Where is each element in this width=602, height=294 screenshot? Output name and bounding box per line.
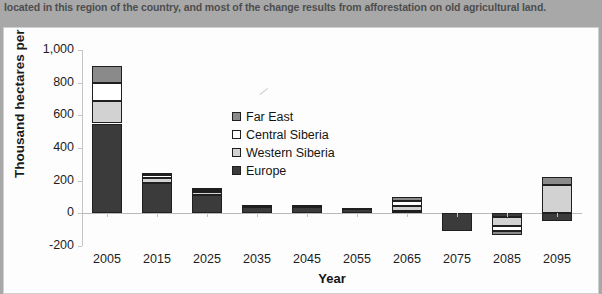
legend-swatch-western-siberia — [232, 148, 241, 157]
y-axis-tick-mark — [78, 83, 82, 84]
bar-segment-far-east[interactable] — [342, 208, 372, 210]
bar-segment-europe[interactable] — [142, 183, 172, 213]
legend-item[interactable]: Central Siberia — [232, 126, 335, 143]
bar-segment-western-siberia[interactable] — [192, 192, 222, 195]
bar-segment-western-siberia[interactable] — [92, 101, 122, 124]
bar-segment-western-siberia[interactable] — [142, 178, 172, 183]
x-axis-title: Year — [82, 271, 582, 286]
bar-segment-far-east[interactable] — [92, 66, 122, 82]
bar-segment-far-east[interactable] — [542, 177, 572, 184]
x-axis-tick-mark — [457, 213, 458, 217]
y-axis-tick-label: 200 — [12, 173, 74, 187]
bar-segment-far-east[interactable] — [242, 205, 272, 207]
legend-item[interactable]: Far East — [232, 108, 335, 125]
x-axis-tick-mark — [207, 213, 208, 217]
y-axis-tick-label: 400 — [12, 140, 74, 154]
y-axis-tick-mark — [78, 246, 82, 247]
x-axis-tick-mark — [307, 213, 308, 217]
bar-segment-europe[interactable] — [92, 124, 122, 214]
y-axis-tick-mark — [78, 115, 82, 116]
legend-swatch-central-siberia — [232, 130, 241, 139]
x-axis-tick-mark — [107, 213, 108, 217]
chart-legend: Far EastCentral SiberiaWestern SiberiaEu… — [232, 108, 335, 180]
legend-label: Europe — [246, 164, 286, 178]
bar-segment-far-east[interactable] — [392, 197, 422, 201]
bar-segment-far-east[interactable] — [492, 231, 522, 234]
x-axis-tick-mark — [557, 213, 558, 217]
bar-segment-western-siberia[interactable] — [392, 206, 422, 212]
x-axis-tick-mark — [257, 213, 258, 217]
y-axis-tick-mark — [78, 181, 82, 182]
y-axis-tick-label: 0 — [12, 205, 74, 219]
legend-item[interactable]: Europe — [232, 162, 335, 179]
bar-segment-western-siberia[interactable] — [542, 185, 572, 214]
y-axis-tick-label: 600 — [12, 107, 74, 121]
bar-segment-central-siberia[interactable] — [92, 83, 122, 101]
y-axis-line — [82, 50, 83, 246]
y-axis-tick-label: 800 — [12, 75, 74, 89]
bar-segment-central-siberia[interactable] — [192, 190, 222, 192]
legend-swatch-far-east — [232, 112, 241, 121]
legend-label: Far East — [246, 110, 293, 124]
document-body-text: located in this region of the country, a… — [0, 0, 602, 27]
y-axis-tick-mark — [78, 50, 82, 51]
bar-segment-central-siberia[interactable] — [392, 201, 422, 206]
legend-item[interactable]: Western Siberia — [232, 144, 335, 161]
y-axis-tick-label: -200 — [12, 238, 74, 252]
y-axis-tick-label: 1,000 — [12, 42, 74, 56]
chart-figure: Thousand hectares per year -200020040060… — [3, 27, 599, 294]
x-axis-tick-mark — [357, 213, 358, 217]
x-axis-tick-mark — [157, 213, 158, 217]
x-axis-tick-label: 2095 — [527, 252, 587, 266]
bar-segment-central-siberia[interactable] — [142, 175, 172, 178]
legend-label: Western Siberia — [246, 146, 335, 160]
x-axis-tick-mark — [507, 213, 508, 217]
bar-segment-western-siberia[interactable] — [492, 217, 522, 226]
bar-segment-far-east[interactable] — [142, 173, 172, 176]
legend-label: Central Siberia — [246, 128, 329, 142]
bar-segment-far-east[interactable] — [192, 188, 222, 190]
x-axis-tick-mark — [407, 213, 408, 217]
y-axis-tick-labels: -20002004006008001,000 — [4, 50, 74, 246]
bar-segment-far-east[interactable] — [292, 205, 322, 207]
bar-segment-europe[interactable] — [192, 195, 222, 213]
legend-swatch-europe — [232, 166, 241, 175]
x-axis-tick-labels: 2005201520252035204520552065207520852095 — [82, 252, 582, 270]
y-axis-tick-mark — [78, 148, 82, 149]
